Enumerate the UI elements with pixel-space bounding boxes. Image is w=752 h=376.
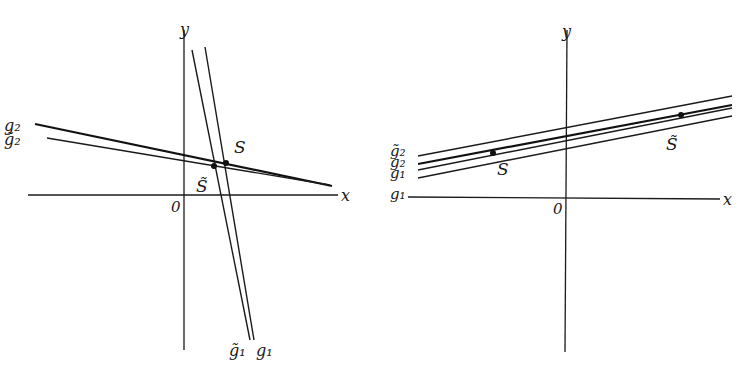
- right-point-S-label: S: [497, 159, 509, 179]
- left-point-S-tilde-label: S̃: [196, 176, 208, 196]
- left-label-g2-tilde: g̃₂: [4, 130, 21, 149]
- right-point-S-tilde-label: S̃: [666, 134, 678, 154]
- left-line-g2-tilde: [47, 138, 330, 185]
- figure: x y 0 S S̃ g₂ g̃₂ g̃₁ g₁ x y 0 S S̃ g̃₂ …: [0, 0, 752, 376]
- right-point-S-tilde: [678, 112, 684, 118]
- right-label-g1-lower: g₁: [390, 185, 406, 203]
- left-label-g1-tilde: g̃₁: [229, 341, 246, 360]
- left-y-axis-label: y: [179, 20, 190, 39]
- right-x-axis-label: x: [723, 190, 732, 209]
- left-x-axis-label: x: [341, 186, 350, 205]
- right-x-axis: [408, 197, 720, 199]
- right-point-S: [490, 150, 496, 156]
- left-origin-label: 0: [171, 198, 181, 216]
- right-y-axis: [565, 30, 567, 352]
- right-line-g2: [418, 105, 732, 164]
- right-y-axis-label: y: [561, 22, 572, 41]
- right-panel: x y 0 S S̃ g̃₂ g₂ g₁ g₁: [390, 22, 732, 352]
- left-panel: x y 0 S S̃ g₂ g̃₂ g̃₁ g₁: [4, 20, 350, 360]
- left-point-S-label: S: [234, 137, 246, 157]
- left-line-g1: [205, 47, 254, 340]
- right-label-g1-upper: g₁: [390, 164, 406, 182]
- left-label-g1: g₁: [256, 341, 273, 360]
- left-point-S: [223, 160, 229, 166]
- right-line-g1-tilde: [418, 108, 732, 170]
- left-point-S-tilde: [211, 163, 217, 169]
- right-origin-label: 0: [553, 200, 563, 218]
